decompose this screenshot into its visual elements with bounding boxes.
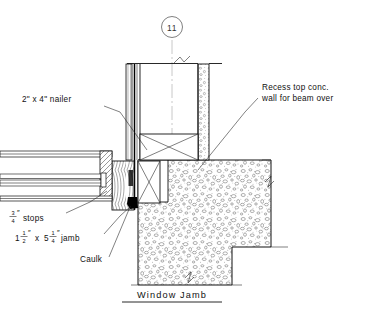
caulk-bead-upper [129,170,134,186]
drawing-title: Window Jamb [137,290,207,300]
nailer-vertical-section [138,161,160,203]
upper-concrete-strip [198,64,209,160]
jamb-fraction-a-denominator: 2 [22,238,25,244]
sheathing-strip [126,64,132,160]
stops-inch-mark: ″ [17,208,20,217]
annotation-nailer: 2" x 4" nailer [22,95,71,104]
upper-conc-wall-strip [198,64,209,160]
jamb-whole-a: 1 [15,234,20,243]
annotation-nailer-label: 2" x 4" nailer [22,95,71,104]
stops-fraction-denominator: 4 [11,218,14,224]
jamb-fraction-b-denominator: 4 [51,238,54,244]
stops-fraction-numerator: 3 [11,210,14,216]
sash-end-cap [101,173,106,187]
jamb-multiply-symbol: x [35,234,39,243]
jamb-inch-mark-a: ″ [28,228,31,237]
annotation-caulk-label: Caulk [80,255,103,264]
jamb-fraction-a-numerator: 1 [22,230,25,236]
annotation-caulk: Caulk [80,255,103,264]
jamb-fraction-b-numerator: 1 [51,230,54,236]
jamb-inch-mark-b: ″ [57,228,60,237]
detail-drawing-canvas: 11 [0,0,365,313]
annotation-recess-line2: wall for beam over [261,94,333,103]
nailer-horizontal-section [140,134,198,160]
detail-bubble-label: 11 [167,23,177,33]
jamb-whole-b: 5 [44,234,49,243]
annotation-stops-label: stops [23,214,44,223]
annotation-jamb-label: jamb [60,234,80,243]
sash-band-upper [0,174,101,179]
window-jamb-detail-drawing: 11 [0,0,365,313]
annotation-recess-line1: Recess top conc. [262,83,329,92]
